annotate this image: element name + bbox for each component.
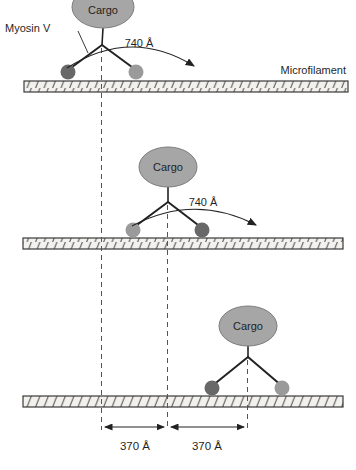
dimension-370-left: 370 Å — [105, 427, 164, 452]
microfilament-band-3 — [23, 396, 343, 407]
microfilament-label: Microfilament — [281, 64, 346, 76]
myosin-leg-3-right — [248, 357, 282, 386]
step-arc-label-2: 740 Å — [189, 196, 218, 208]
cargo-label-2: Cargo — [153, 161, 183, 173]
cargo-label-1: Cargo — [88, 4, 118, 16]
microfilament-track-1 — [24, 81, 348, 92]
myosin-step-1: Cargo 740 Å — [61, 0, 195, 80]
myosin-leg-2-left — [133, 202, 168, 228]
microfilament-track-3 — [23, 396, 343, 407]
microfilament-track-2 — [23, 238, 343, 249]
diagram-canvas: Cargo 740 Å Myosin V Microfilament Cargo… — [0, 0, 356, 470]
microfilament-band-1 — [24, 81, 348, 92]
myosin-v-label: Myosin V — [5, 22, 51, 34]
myosin-head-2-right — [195, 223, 210, 238]
dimension-label-370-right: 370 Å — [192, 440, 222, 452]
myosin-head-1-right — [129, 65, 144, 80]
cargo-label-3: Cargo — [233, 320, 263, 332]
myosin-step-2: Cargo 740 Å — [126, 147, 257, 238]
myosin-head-3-left — [205, 381, 220, 396]
myosin-v-pointer-line — [78, 31, 88, 53]
step-arc-label-1: 740 Å — [125, 37, 154, 49]
dimension-370-right: 370 Å — [171, 427, 244, 452]
myosin-leg-3-left — [212, 357, 248, 386]
step-arc-740-2 — [132, 209, 256, 226]
dimension-label-370-left: 370 Å — [120, 440, 150, 452]
myosin-stalk-1 — [102, 28, 103, 45]
microfilament-band-2 — [23, 238, 343, 249]
myosin-head-3-right — [275, 381, 290, 396]
myosin-head-2-left — [126, 223, 141, 238]
figure-myosin-v-stepping: Cargo 740 Å Myosin V Microfilament Cargo… — [0, 0, 356, 470]
